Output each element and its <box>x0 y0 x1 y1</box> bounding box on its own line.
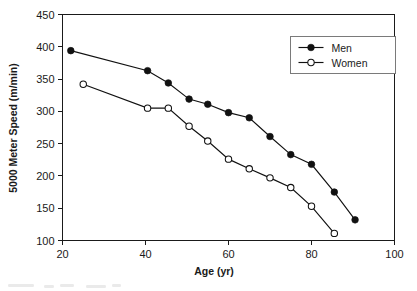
x-tick-label: 60 <box>222 248 234 260</box>
chart-legend: MenWomen <box>291 37 396 74</box>
scan-smudge <box>86 285 106 288</box>
scan-smudge <box>112 284 121 287</box>
data-point <box>144 67 151 74</box>
chart-figure: 20406080100 100150200250300350400450 Men… <box>0 0 417 291</box>
x-tick-label: 20 <box>56 248 68 260</box>
data-point <box>165 80 172 87</box>
data-point <box>352 217 359 224</box>
y-tick-label: 400 <box>36 41 54 53</box>
data-point <box>246 115 253 122</box>
y-axis-title: 5000 Meter Speed (m/min) <box>7 63 19 193</box>
data-point <box>288 184 294 190</box>
y-tick-label: 150 <box>36 202 54 214</box>
scan-smudge <box>60 284 74 287</box>
data-point <box>204 101 211 108</box>
data-point <box>144 105 150 111</box>
data-point <box>186 123 192 129</box>
y-axis-ticks <box>58 15 63 241</box>
legend-label: Men <box>332 42 353 54</box>
y-tick-label: 350 <box>36 73 54 85</box>
scan-artifacts <box>8 284 121 288</box>
y-tick-label: 450 <box>36 9 54 21</box>
x-axis-ticks <box>63 241 395 246</box>
series-line <box>71 51 355 220</box>
y-tick-label: 300 <box>36 105 54 117</box>
data-point <box>267 175 273 181</box>
data-point <box>331 189 338 196</box>
data-point <box>68 47 75 54</box>
x-axis-title: Age (yr) <box>194 265 234 277</box>
data-point <box>246 166 252 172</box>
data-point <box>267 133 274 140</box>
data-point <box>80 81 86 87</box>
y-axis-tick-labels: 100150200250300350400450 <box>36 9 54 247</box>
legend-marker <box>308 59 314 65</box>
x-tick-label: 100 <box>385 248 403 260</box>
data-point <box>205 138 211 144</box>
legend-marker <box>308 44 315 51</box>
scan-smudge <box>8 284 34 287</box>
data-point <box>308 203 314 209</box>
y-tick-label: 100 <box>36 235 54 247</box>
scan-smudge <box>44 285 54 288</box>
chart-canvas: 20406080100 100150200250300350400450 Men… <box>0 0 417 291</box>
x-axis-tick-labels: 20406080100 <box>56 248 403 260</box>
data-point <box>331 230 337 236</box>
legend-label: Women <box>332 57 368 69</box>
y-tick-label: 200 <box>36 170 54 182</box>
data-point <box>308 161 315 168</box>
data-point <box>186 96 193 103</box>
data-point <box>225 156 231 162</box>
y-tick-label: 250 <box>36 138 54 150</box>
x-tick-label: 80 <box>305 248 317 260</box>
x-tick-label: 40 <box>139 248 151 260</box>
data-point <box>225 109 232 116</box>
data-point <box>287 151 294 158</box>
data-point <box>165 105 171 111</box>
data-series-layer <box>68 47 359 236</box>
